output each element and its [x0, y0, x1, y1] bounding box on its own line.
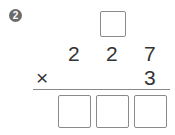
carry-box[interactable]: [100, 11, 126, 37]
answer-box-ones[interactable]: [134, 95, 167, 128]
multiplicand-digit-ones: 7: [144, 43, 156, 64]
result-divider-line: [33, 89, 170, 90]
multiplicand-digit-hundreds: 2: [68, 43, 80, 64]
problem-number-badge: 2: [9, 9, 22, 22]
multiplier-digit: 3: [144, 67, 156, 88]
answer-box-tens[interactable]: [96, 95, 129, 128]
answer-box-hundreds[interactable]: [58, 95, 91, 128]
multiply-operator: ×: [36, 67, 48, 88]
multiplicand-digit-tens: 2: [106, 43, 118, 64]
